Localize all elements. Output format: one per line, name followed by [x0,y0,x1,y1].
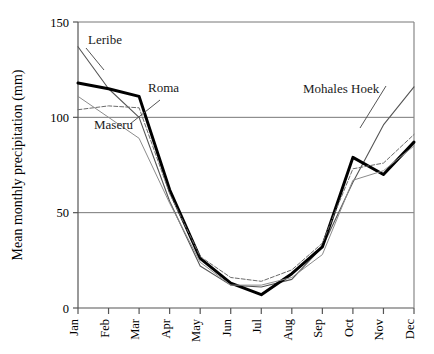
annotation-leribe: Leribe [88,32,122,47]
x-tick-label-dec: Dec [403,319,417,340]
x-tick-label-apr: Apr [159,318,173,338]
annotation-maseru: Maseru [94,117,133,132]
precipitation-line-chart: 050100150 JanFebMarAprMayJunJulAugSepOct… [0,0,434,354]
x-tick-label-nov: Nov [372,318,386,340]
y-axis-title: Mean monthly precipitation (mm) [10,69,26,260]
x-tick-label-sep: Sep [311,319,325,338]
chart-canvas: 050100150 JanFebMarAprMayJunJulAugSepOct… [0,0,434,354]
x-tick-label-mar: Mar [128,318,142,340]
annotation-mohales-hoek: Mohales Hoek [303,81,380,96]
x-tick-label-jun: Jun [220,318,234,336]
y-tick-label-150: 150 [50,16,69,30]
y-tick-label-0: 0 [63,302,69,316]
x-tick-label-aug: Aug [281,318,295,340]
x-tick-label-jan: Jan [67,318,81,335]
x-tick-label-may: May [189,318,203,342]
annotation-roma: Roma [148,80,179,95]
x-tick-label-oct: Oct [342,318,356,337]
y-tick-label-100: 100 [50,111,69,125]
x-tick-label-feb: Feb [98,319,112,338]
y-tick-label-50: 50 [57,206,70,220]
x-tick-label-jul: Jul [250,318,264,333]
